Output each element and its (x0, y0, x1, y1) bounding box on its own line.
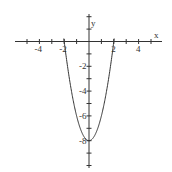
y-tick-label: -6 (79, 111, 87, 121)
x-tick-label: 4 (136, 44, 141, 54)
plot-area: -4-224-2-4-6-8 x y (0, 0, 172, 172)
graph: -4-224-2-4-6-8 x y (0, 0, 172, 172)
y-tick-label: -8 (79, 136, 87, 146)
tick-labels: -4-224-2-4-6-8 (34, 44, 141, 146)
axes (15, 14, 162, 168)
x-tick-label: -4 (34, 44, 42, 54)
x-axis-label: x (154, 30, 159, 40)
y-axis-label: y (91, 18, 96, 28)
y-tick-label: -4 (79, 86, 87, 96)
y-tick-label: -2 (79, 61, 87, 71)
